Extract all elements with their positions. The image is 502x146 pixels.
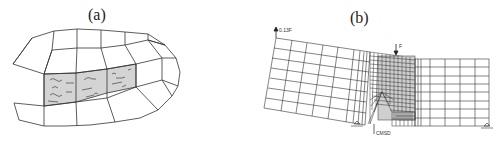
mesh-diagram-a — [0, 0, 250, 146]
label-f: F — [399, 43, 402, 49]
panel-b: (b) 0.13F — [250, 0, 502, 146]
support-icons — [351, 121, 493, 128]
panel-a: (a) — [0, 0, 250, 146]
label-cmsd: CMSD — [376, 130, 391, 136]
left-coarse-mesh — [264, 38, 370, 125]
mesh-diagram-b: 0.13F — [250, 0, 502, 146]
label-013f: 0.13F — [279, 27, 292, 33]
right-coarse-mesh — [415, 59, 489, 126]
